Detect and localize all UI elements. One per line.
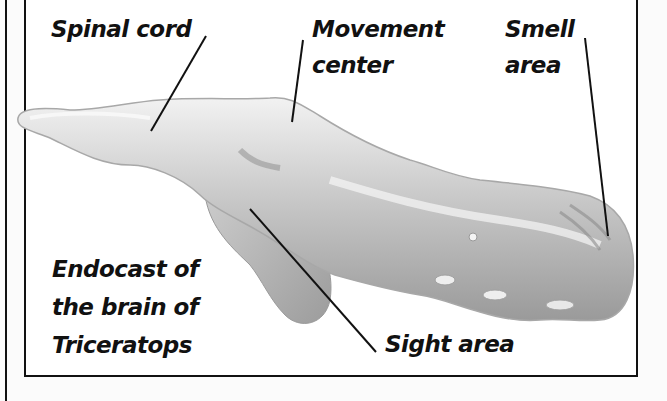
label-sight-area: Sight area [385,332,514,357]
figure-title-line2: the brain of [52,295,198,320]
label-smell-area-line2: area [505,53,561,78]
figure-title-line1: Endocast of [52,257,199,282]
label-movement-center-line2: center [312,53,393,78]
figure-title-line3: Triceratops [52,333,192,358]
label-spinal-cord: Spinal cord [51,17,191,42]
label-smell-area-line1: Smell [505,17,574,42]
label-movement-center-line1: Movement [312,17,444,42]
